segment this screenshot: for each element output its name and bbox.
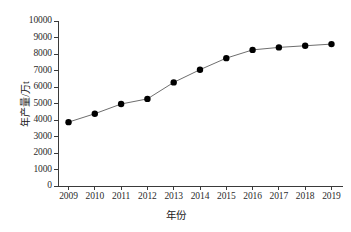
data-point <box>92 111 98 117</box>
line-chart: 0100020003000400050006000700080009000100… <box>0 0 351 232</box>
data-point <box>144 96 150 102</box>
data-point <box>197 66 203 72</box>
data-point <box>249 47 255 53</box>
data-point <box>302 43 308 49</box>
series-line-annual-output <box>69 44 332 122</box>
series-plot <box>0 0 351 232</box>
data-point <box>171 79 177 85</box>
data-point <box>328 41 334 47</box>
data-point <box>276 44 282 50</box>
series-markers <box>65 41 334 125</box>
data-point <box>65 119 71 125</box>
data-point <box>118 101 124 107</box>
data-point <box>223 55 229 61</box>
